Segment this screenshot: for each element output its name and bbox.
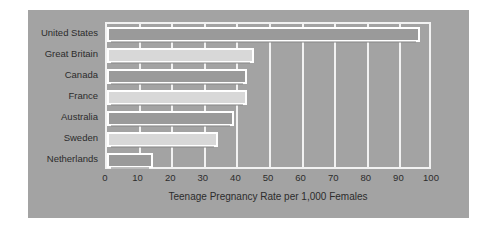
category-label-great-britain: Great Britain	[45, 43, 98, 64]
x-tick-label-50: 50	[263, 172, 274, 183]
x-axis-tick-labels: 0102030405060708090100	[105, 172, 431, 188]
category-label-sweden: Sweden	[64, 127, 98, 148]
x-tick-label-90: 90	[393, 172, 404, 183]
bar-canada	[107, 69, 247, 84]
bar-row	[107, 24, 420, 45]
x-tick-label-40: 40	[230, 172, 241, 183]
y-axis-category-labels: United StatesGreat BritainCanadaFranceAu…	[28, 22, 102, 169]
x-tick-label-100: 100	[423, 172, 439, 183]
bar-row	[107, 129, 218, 150]
bar-great-britain	[107, 48, 254, 63]
x-tick-label-30: 30	[198, 172, 209, 183]
bar-united-states	[107, 27, 420, 42]
chart-figure: United StatesGreat BritainCanadaFranceAu…	[28, 10, 469, 218]
category-label-australia: Australia	[61, 106, 98, 127]
x-tick-label-20: 20	[165, 172, 176, 183]
bar-row	[107, 150, 153, 171]
bar-australia	[107, 111, 234, 126]
bar-netherlands	[107, 153, 153, 168]
bar-row	[107, 66, 247, 87]
plot-area	[105, 22, 431, 169]
bar-series	[107, 24, 429, 167]
category-label-netherlands: Netherlands	[47, 148, 98, 169]
x-tick-label-10: 10	[132, 172, 143, 183]
category-label-france: France	[68, 85, 98, 106]
category-label-united-states: United States	[41, 22, 98, 43]
bar-row	[107, 108, 234, 129]
category-label-canada: Canada	[65, 64, 98, 85]
x-tick-label-60: 60	[295, 172, 306, 183]
bar-france	[107, 90, 247, 105]
x-tick-label-0: 0	[102, 172, 107, 183]
x-tick-label-80: 80	[361, 172, 372, 183]
bar-row	[107, 87, 247, 108]
x-axis-title: Teenage Pregnancy Rate per 1,000 Females	[105, 191, 431, 202]
bar-sweden	[107, 132, 218, 147]
bar-row	[107, 45, 254, 66]
x-tick-label-70: 70	[328, 172, 339, 183]
